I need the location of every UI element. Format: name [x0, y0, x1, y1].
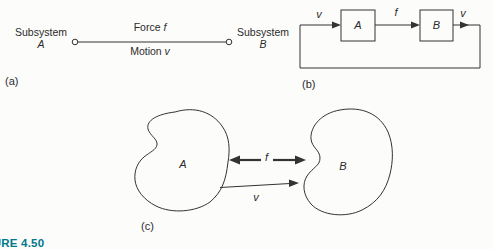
input-signal-label: v [312, 8, 326, 20]
output-signal-label: v [456, 7, 470, 19]
motion-label: Motion v [113, 45, 187, 57]
force-arrowhead-right [295, 156, 306, 165]
force-label-text: Force [134, 21, 161, 33]
velocity-var-label: v [247, 191, 265, 203]
velocity-arrow-line [220, 184, 290, 188]
subsystem-b-text: Subsystem [232, 26, 294, 38]
blob-b-label: B [326, 160, 360, 172]
force-arrowhead-left [229, 156, 240, 165]
panel-c-tag: (c) [141, 220, 154, 232]
motion-label-var: v [165, 45, 170, 57]
panel-b-tag: (b) [302, 78, 315, 90]
block-a-label: A [341, 19, 375, 31]
subsystem-a-text: Subsystem [10, 26, 72, 38]
force-label-var: f [163, 21, 166, 33]
terminal-b-circle [226, 39, 232, 45]
blob-a-label: A [166, 158, 200, 170]
motion-label-text: Motion [130, 45, 162, 57]
velocity-arrowhead [289, 180, 299, 188]
terminal-a-circle [72, 39, 78, 45]
panel-a-tag: (a) [5, 75, 18, 87]
force-label: Force f [113, 21, 187, 33]
subsystem-b-label: Subsystem B [232, 26, 294, 50]
coupling-signal-label: f [389, 6, 403, 18]
subsystem-a-label: Subsystem A [10, 26, 72, 50]
subsystem-a-var: A [10, 38, 72, 50]
arrowhead-into-block-a [332, 22, 341, 29]
block-b-label: B [420, 19, 453, 31]
arrowhead-into-block-b [411, 22, 420, 29]
force-var-label: f [258, 151, 275, 163]
figure-caption: FIGURE 4.50 [0, 237, 44, 249]
arrowhead-output [460, 22, 469, 29]
subsystem-b-var: B [232, 38, 294, 50]
